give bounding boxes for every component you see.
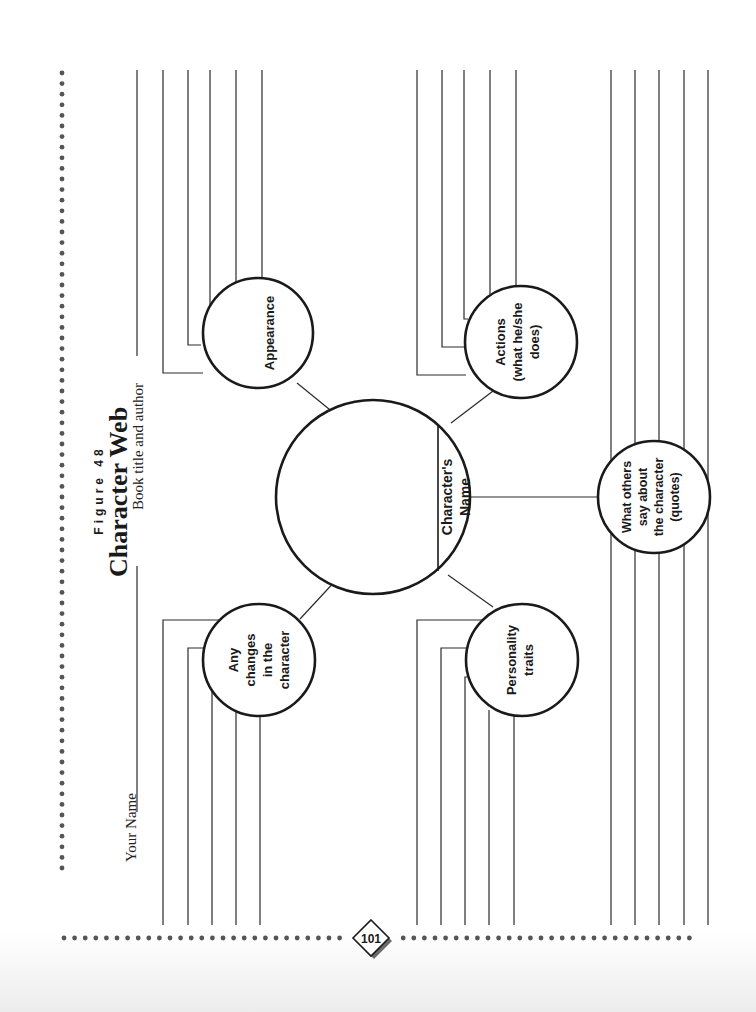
bubble-personality-line-1: Personality: [504, 624, 519, 695]
bubble-actions-line-1: Actions: [493, 318, 508, 366]
bubble-changes-line-3: in the: [260, 643, 275, 678]
bubble-personality-line-2: traits: [521, 644, 536, 676]
page-number: 101: [361, 932, 381, 946]
bubble-actions-line-3: does): [527, 325, 542, 360]
bubble-actions: Actions (what he/she does): [465, 286, 577, 398]
center-label-line2: Name: [457, 478, 473, 516]
bubble-personality: Personality traits: [466, 604, 578, 716]
bubble-changes: Any changes in the character: [203, 604, 315, 716]
bubble-appearance: Appearance: [203, 278, 313, 388]
center-bubble-character-name: Character's Name: [276, 400, 473, 594]
bubble-others-say-line-3: the character: [652, 458, 666, 537]
bubble-others-say-line-4: (quotes): [668, 472, 682, 521]
center-label-line1: Character's: [439, 459, 455, 536]
book-title-label: Book title and author: [130, 383, 146, 510]
bubble-actions-line-2: (what he/she: [510, 303, 525, 382]
worksheet-page: 101 Figure 48 Character Web Book title a…: [0, 0, 756, 1012]
page-title: Character Web: [104, 407, 133, 577]
bubble-others-say-line-1: What others: [620, 461, 634, 533]
page-number-badge: 101: [353, 920, 392, 959]
bubble-others-say-line-2: say about: [636, 467, 650, 526]
bubble-changes-line-4: character: [277, 631, 292, 690]
bubble-others-say: What others say about the character (quo…: [598, 441, 710, 553]
bubble-appearance-line: Appearance: [262, 296, 277, 370]
bubble-changes-line-2: changes: [243, 634, 258, 687]
bubble-changes-line-1: Any: [226, 647, 241, 672]
left-dotted-border: [60, 71, 65, 871]
